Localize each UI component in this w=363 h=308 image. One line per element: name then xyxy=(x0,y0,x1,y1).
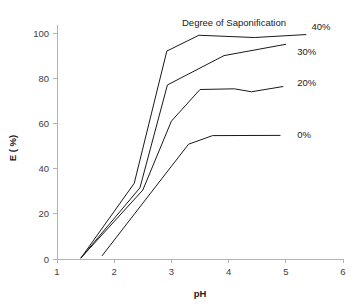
tick-marks xyxy=(53,33,343,263)
y-tick-label: 0 xyxy=(44,254,49,265)
x-tick-label: 1 xyxy=(54,266,59,277)
y-tick-label: 40 xyxy=(38,163,49,174)
series-labels: 40%30%20%0% xyxy=(297,21,331,140)
y-axis-tick-labels: 020406080100 xyxy=(33,28,49,265)
series-line-20pct xyxy=(81,87,283,258)
y-tick-label: 60 xyxy=(38,118,49,129)
x-tick-label: 4 xyxy=(226,266,231,277)
x-axis-title: pH xyxy=(194,288,207,299)
x-tick-label: 5 xyxy=(283,266,288,277)
y-axis-title: E ( %) xyxy=(7,135,18,161)
y-tick-label: 80 xyxy=(38,73,49,84)
series-label-30pct: 30% xyxy=(297,46,317,57)
data-series xyxy=(81,35,306,258)
series-label-40pct: 40% xyxy=(312,21,332,32)
x-tick-label: 2 xyxy=(112,266,117,277)
chart-container: 123456 020406080100 40%30%20%0% Degree o… xyxy=(0,0,363,308)
axes xyxy=(57,25,343,259)
x-tick-label: 6 xyxy=(340,266,345,277)
x-axis-tick-labels: 123456 xyxy=(54,266,345,277)
series-label-20pct: 20% xyxy=(297,77,317,88)
series-line-0pct xyxy=(102,135,280,255)
line-chart: 123456 020406080100 40%30%20%0% Degree o… xyxy=(0,0,363,308)
series-label-0pct: 0% xyxy=(297,129,311,140)
y-tick-label: 100 xyxy=(33,28,49,39)
legend-title: Degree of Saponification xyxy=(182,17,286,28)
x-tick-label: 3 xyxy=(169,266,174,277)
series-line-40pct xyxy=(81,35,306,258)
y-tick-label: 20 xyxy=(38,208,49,219)
